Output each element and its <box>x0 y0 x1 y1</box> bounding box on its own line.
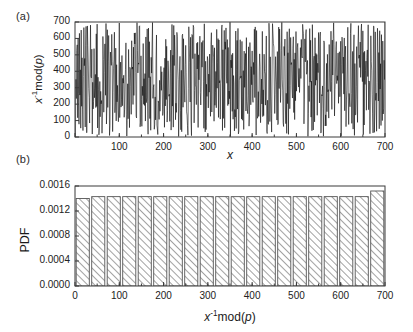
panel-a-x-tick-label: 500 <box>278 141 314 152</box>
panel-a-x-tick-label: 100 <box>101 141 137 152</box>
histogram-bar <box>200 197 213 286</box>
panel-b-x-tick-label: 700 <box>367 290 403 301</box>
histogram-bar <box>216 197 229 286</box>
panel-b-x-tick-label: 100 <box>101 290 137 301</box>
panel-a-x-tick-label: 600 <box>323 141 359 152</box>
figure-container: (a) (b) x-1mod(p) PDF x x-1mod(p) <box>0 0 413 332</box>
histogram-bar <box>278 197 291 286</box>
panel-a-y-tick-label: 200 <box>32 97 70 108</box>
panel-a-y-tick-label: 700 <box>32 15 70 26</box>
panel-a-y-tick-label: 400 <box>32 64 70 75</box>
histogram-bar <box>154 197 167 286</box>
panel-b-x-tick-label: 500 <box>278 290 314 301</box>
panel-a-y-tick-label: 300 <box>32 81 70 92</box>
histogram-bar <box>231 197 244 286</box>
histogram-bar <box>355 197 368 286</box>
panel-a-y-tick-label: 600 <box>32 31 70 42</box>
panel-b-x-tick-label: 300 <box>190 290 226 301</box>
panel-a-x-tick-label: 700 <box>367 141 403 152</box>
panel-b-x-tick-label: 600 <box>323 290 359 301</box>
histogram-bar <box>324 197 337 286</box>
panel-b-x-tick-label: 400 <box>234 290 270 301</box>
panel-a-x-tick-label: 200 <box>146 141 182 152</box>
histogram-bar <box>76 199 89 287</box>
histogram-bar <box>169 197 182 286</box>
histogram-bar <box>123 197 136 286</box>
panel-b-x-tick-label: 0 <box>57 290 93 301</box>
panel-b-y-tick-label: 0.0016 <box>22 179 70 190</box>
panel-b-y-tick-label: 0.0008 <box>22 229 70 240</box>
histogram-bar <box>262 197 275 286</box>
panel-b-x-tick-label: 200 <box>146 290 182 301</box>
histogram-bar <box>371 191 384 286</box>
histogram-bar <box>138 197 151 286</box>
histogram-bar <box>293 197 306 286</box>
panel-b-y-tick-label: 0.0004 <box>22 254 70 265</box>
histogram-bar <box>92 197 105 286</box>
panel-a-plot <box>75 22 385 137</box>
panel-a-series <box>75 22 385 137</box>
panel-a-x-tick-label: 400 <box>234 141 270 152</box>
panel-a-y-tick-label: 0 <box>32 130 70 141</box>
panel-b-ticks <box>75 186 385 286</box>
panel-a-x-tick-label: 300 <box>190 141 226 152</box>
histogram-bar <box>309 197 322 286</box>
panel-a-y-tick-label: 100 <box>32 114 70 125</box>
panel-b-y-tick-label: 0.0000 <box>22 279 70 290</box>
histogram-bar <box>107 197 120 286</box>
histogram-bar <box>185 197 198 286</box>
histogram-bar <box>340 197 353 286</box>
panel-a-y-tick-label: 500 <box>32 48 70 59</box>
panel-b-bars <box>76 191 384 286</box>
panel-b-y-tick-label: 0.0012 <box>22 204 70 215</box>
histogram-bar <box>247 197 260 286</box>
panel-b-plot <box>75 186 385 286</box>
panel-b-frame <box>75 186 385 286</box>
